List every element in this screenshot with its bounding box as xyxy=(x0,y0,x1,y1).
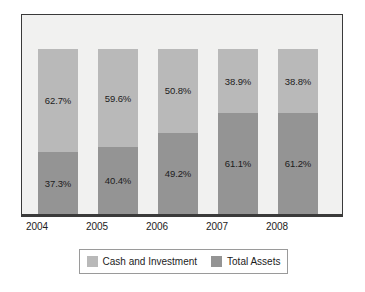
bar-segment-label: 37.3% xyxy=(45,178,71,189)
bar-segment-label: 59.6% xyxy=(105,93,131,104)
x-tick-label-2005: 2005 xyxy=(67,221,127,232)
bar-segment-cash-and-investment[interactable]: 38.8% xyxy=(278,49,318,113)
legend-swatch-icon xyxy=(87,256,98,267)
bar-group-2005[interactable]: 59.6% 40.4% xyxy=(98,49,138,214)
bar-segment-total-assets[interactable]: 49.2% xyxy=(158,133,198,214)
x-tick-label-2008: 2008 xyxy=(247,221,307,232)
bar-segment-cash-and-investment[interactable]: 62.7% xyxy=(38,49,78,152)
bar-segment-label: 61.2% xyxy=(285,158,311,169)
bar-segment-cash-and-investment[interactable]: 38.9% xyxy=(218,49,258,113)
bar-group-2008[interactable]: 38.8% 61.2% xyxy=(278,49,318,214)
plot-area: 62.7% 37.3% 59.6% 40.4% 50.8% xyxy=(22,15,342,216)
legend-swatch-icon xyxy=(211,256,222,267)
bar-segment-total-assets[interactable]: 61.2% xyxy=(278,113,318,214)
legend-entry-cash-and-investment[interactable]: Cash and Investment xyxy=(87,256,198,267)
x-tick-label-2004: 2004 xyxy=(7,221,67,232)
bar-segment-cash-and-investment[interactable]: 59.6% xyxy=(98,49,138,147)
bar-segment-total-assets[interactable]: 61.1% xyxy=(218,113,258,214)
chart-figure: 62.7% 37.3% 59.6% 40.4% 50.8% xyxy=(0,0,365,292)
bar-segment-label: 38.8% xyxy=(285,76,311,87)
x-tick-label-2007: 2007 xyxy=(187,221,247,232)
plot-frame: 62.7% 37.3% 59.6% 40.4% 50.8% xyxy=(21,14,343,217)
bar-segment-label: 50.8% xyxy=(165,85,191,96)
chart-legend: Cash and Investment Total Assets xyxy=(79,249,288,274)
bar-segment-cash-and-investment[interactable]: 50.8% xyxy=(158,49,198,133)
legend-entry-total-assets[interactable]: Total Assets xyxy=(211,256,280,267)
legend-label: Total Assets xyxy=(227,256,280,267)
bar-group-2004[interactable]: 62.7% 37.3% xyxy=(38,49,78,214)
bar-segment-label: 40.4% xyxy=(105,175,131,186)
bar-segment-label: 61.1% xyxy=(225,158,251,169)
x-axis-line xyxy=(22,214,342,216)
bar-segment-label: 62.7% xyxy=(45,95,71,106)
bar-segment-total-assets[interactable]: 37.3% xyxy=(38,152,78,214)
bar-segment-total-assets[interactable]: 40.4% xyxy=(98,147,138,214)
bar-group-2007[interactable]: 38.9% 61.1% xyxy=(218,49,258,214)
x-tick-label-2006: 2006 xyxy=(127,221,187,232)
bar-segment-label: 38.9% xyxy=(225,76,251,87)
legend-label: Cash and Investment xyxy=(103,256,198,267)
bar-segment-label: 49.2% xyxy=(165,168,191,179)
bar-group-2006[interactable]: 50.8% 49.2% xyxy=(158,49,198,214)
